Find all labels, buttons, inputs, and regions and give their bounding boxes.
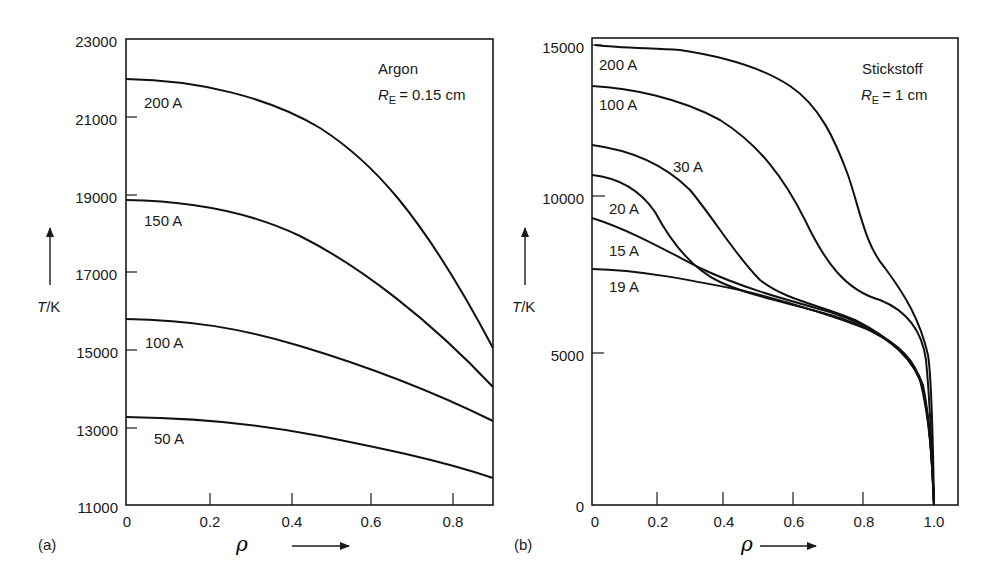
x-tick-label: 0 <box>591 513 599 530</box>
curve-50A-a <box>126 417 493 478</box>
y-tick-label: 19000 <box>75 189 117 206</box>
figure: 23000 21000 19000 17000 15000 13000 1100… <box>0 0 996 579</box>
y-tick-label: 15000 <box>76 344 118 361</box>
x-tick-label: 0.8 <box>854 513 875 530</box>
y-tick-label: 21000 <box>75 111 117 128</box>
chart-panel-a: 23000 21000 19000 17000 15000 13000 1100… <box>37 33 493 556</box>
x-tick-label: 0.2 <box>648 513 669 530</box>
y-tick-label: 5000 <box>551 347 584 364</box>
gas-label-a: Argon <box>378 60 418 77</box>
y-axis-a: 23000 21000 19000 17000 15000 13000 1100… <box>75 33 137 516</box>
curve-label: 100 A <box>145 334 183 351</box>
y-axis-label-b: T/K <box>512 298 535 315</box>
curve-label: 100 A <box>599 96 637 113</box>
y-tick-label: 0 <box>576 498 584 515</box>
y-tick-label: 11000 <box>77 499 118 516</box>
y-tick-label: 15000 <box>542 39 584 56</box>
panel-label-a: (a) <box>38 536 56 553</box>
curve-15A-b <box>592 218 934 505</box>
x-axis-label-a: ρ <box>235 532 248 556</box>
x-tick-label: 0.6 <box>361 513 382 530</box>
plot-frame-b <box>592 38 958 505</box>
curve-label: 15 A <box>609 242 639 259</box>
curve-label: 200 A <box>599 56 637 73</box>
radius-label-b: RE= 1 cm <box>861 86 928 106</box>
x-tick-label: 0.6 <box>784 513 805 530</box>
chart-panel-b: 15000 10000 5000 0 0 0.2 0.4 0.6 0.8 1.0… <box>512 38 958 556</box>
curve-label: 150 A <box>144 212 182 229</box>
y-axis-label-a: T/K <box>37 298 60 315</box>
y-axis-b: 15000 10000 5000 0 <box>542 39 605 515</box>
gas-label-b: Stickstoff <box>862 60 923 77</box>
x-axis-a: 0 0.2 0.4 0.6 0.8 <box>123 493 464 530</box>
radius-label-a: RE= 0.15 cm <box>378 86 465 106</box>
curve-19A-b <box>592 269 934 505</box>
curve-label: 30 A <box>673 158 703 175</box>
x-tick-label: 1.0 <box>924 513 945 530</box>
y-tick-label: 17000 <box>75 266 117 283</box>
x-axis-b: 0 0.2 0.4 0.6 0.8 1.0 <box>591 492 945 530</box>
panel-label-b: (b) <box>514 536 532 553</box>
y-tick-label: 23000 <box>75 33 117 50</box>
y-tick-label: 13000 <box>76 422 118 439</box>
y-tick-label: 10000 <box>542 190 584 207</box>
curve-label: 20 A <box>609 200 639 217</box>
x-tick-label: 0.8 <box>443 513 464 530</box>
x-tick-label: 0 <box>123 513 131 530</box>
x-tick-label: 0.4 <box>714 513 735 530</box>
x-axis-label-b: ρ <box>740 532 753 556</box>
curve-label: 19 A <box>609 278 639 295</box>
curve-20A-b <box>592 175 934 505</box>
x-tick-label: 0.2 <box>200 513 221 530</box>
curve-label: 50 A <box>154 430 184 447</box>
curve-label: 200 A <box>144 94 182 111</box>
curve-200A-b <box>595 45 934 505</box>
x-tick-label: 0.4 <box>282 513 303 530</box>
